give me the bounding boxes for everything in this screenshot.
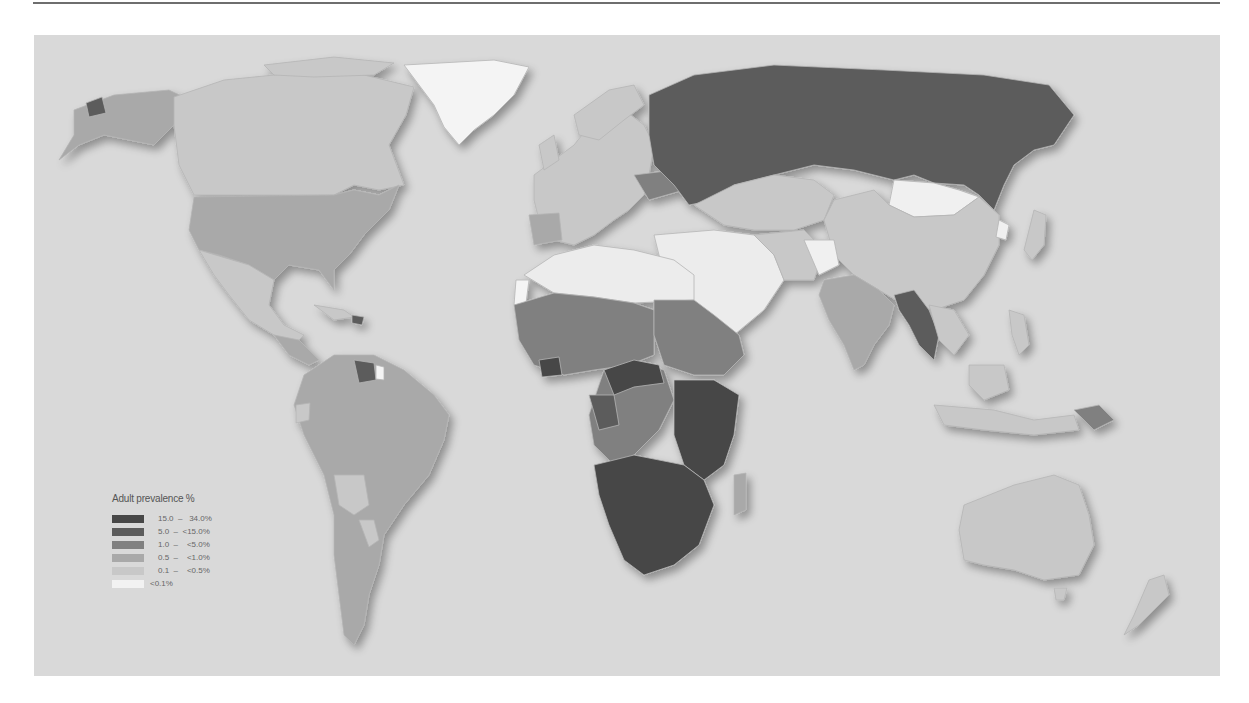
legend-item: 5.0 – <15.0% bbox=[112, 525, 312, 538]
region-ecuador bbox=[296, 403, 310, 423]
legend-swatch bbox=[112, 580, 144, 588]
top-rule bbox=[33, 2, 1220, 4]
region-madagascar bbox=[734, 473, 746, 515]
legend-swatch bbox=[112, 515, 144, 523]
legend-label: <0.1% bbox=[150, 579, 173, 588]
region-french-guiana bbox=[376, 365, 384, 380]
legend-label: 0.1 – <0.5% bbox=[158, 566, 210, 575]
legend-label: 5.0 – <15.0% bbox=[158, 527, 210, 536]
legend-item: 15.0 – 34.0% bbox=[112, 512, 312, 525]
legend-item: 0.1 – <0.5% bbox=[112, 564, 312, 577]
legend-title: Adult prevalence % bbox=[112, 493, 312, 504]
legend-item: <0.1% bbox=[112, 577, 312, 590]
world-map: Adult prevalence % 15.0 – 34.0% 5.0 – <1… bbox=[34, 35, 1220, 676]
legend-swatch bbox=[112, 567, 144, 575]
legend-swatch bbox=[112, 541, 144, 549]
legend-label: 15.0 – 34.0% bbox=[158, 514, 212, 523]
region-haiti bbox=[352, 315, 364, 325]
legend-label: 1.0 – <5.0% bbox=[158, 540, 210, 549]
region-iberia bbox=[529, 213, 562, 245]
legend-label: 0.5 – <1.0% bbox=[158, 553, 210, 562]
legend-item: 1.0 – <5.0% bbox=[112, 538, 312, 551]
region-canada bbox=[174, 73, 414, 195]
legend: Adult prevalence % 15.0 – 34.0% 5.0 – <1… bbox=[112, 493, 312, 590]
legend-item: 0.5 – <1.0% bbox=[112, 551, 312, 564]
legend-swatch bbox=[112, 528, 144, 536]
legend-swatch bbox=[112, 554, 144, 562]
region-ivory-coast bbox=[539, 357, 562, 377]
